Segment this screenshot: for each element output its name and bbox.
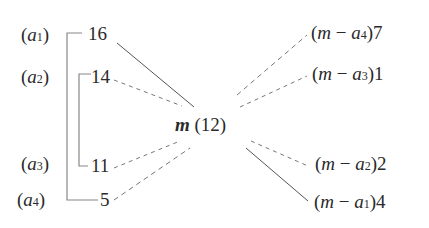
line-16-to-m	[117, 43, 194, 107]
deviation-diagram: (a1) (a2) (a3) (a4) 16 14 11 5 m (12) (m…	[0, 0, 429, 228]
value-a4: 5	[100, 190, 110, 209]
label-a2: (a2)	[21, 67, 49, 86]
value-a1: 16	[88, 24, 107, 43]
center-median: m (12)	[175, 115, 226, 134]
right-item-a2: (m − a2)2	[315, 154, 387, 173]
inner-bracket	[79, 74, 91, 166]
label-a4: (a4)	[17, 190, 45, 209]
line-5-to-m	[114, 148, 190, 200]
right-item-a4: (m − a4)7	[311, 23, 383, 42]
value-a3: 11	[91, 156, 109, 175]
label-a3: (a3)	[21, 154, 49, 173]
right-item-a1: (m − a1)4	[314, 192, 386, 211]
line-14-to-m	[114, 80, 182, 106]
line-m-to-7	[237, 35, 307, 95]
value-a2: 14	[91, 67, 110, 86]
line-m-to-4	[246, 148, 308, 201]
label-a1: (a1)	[21, 25, 49, 44]
line-m-to-1	[240, 76, 307, 107]
line-m-to-2	[251, 141, 308, 166]
right-item-a3: (m − a3)1	[312, 64, 384, 83]
line-11-to-m	[114, 141, 180, 168]
